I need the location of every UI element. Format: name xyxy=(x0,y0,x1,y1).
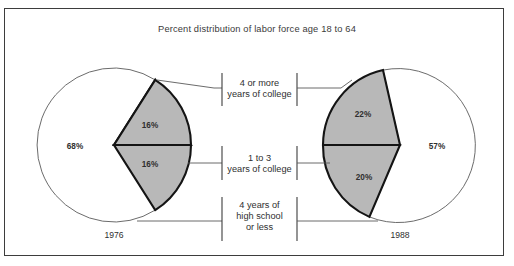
category-label-high-school-line2: high school xyxy=(236,211,282,221)
year-label-1988: 1988 xyxy=(390,230,409,240)
value-label-1988-four-or-more: 22% xyxy=(355,110,372,119)
category-label-one-to-three-line1: 1 to 3 xyxy=(248,153,271,163)
category-label-four-or-more-line1: 4 or more xyxy=(240,78,279,88)
value-label-1976-one-to-three: 16% xyxy=(142,160,159,169)
pie-1976: 16% 16% 68% 1976 xyxy=(37,68,191,240)
value-label-1988-high-school: 57% xyxy=(429,142,446,151)
pie-chart-graphic: 16% 16% 68% 1976 22% 20% 57% 1988 xyxy=(0,0,514,266)
value-label-1976-high-school: 68% xyxy=(67,142,84,151)
figure-page: since the force. Percent distribution of… xyxy=(0,0,514,266)
pie-1988: 22% 20% 57% 1988 xyxy=(323,69,475,240)
category-group-high-school: 4 years of high school or less xyxy=(137,197,378,241)
category-group-four-or-more-college: 4 or more years of college xyxy=(157,73,352,106)
category-label-four-or-more-line2: years of college xyxy=(227,89,291,99)
category-label-high-school-line3: or less xyxy=(246,222,273,232)
category-group-one-to-three-college: 1 to 3 years of college xyxy=(188,146,330,180)
value-label-1988-one-to-three: 20% xyxy=(356,173,373,182)
category-label-one-to-three-line2: years of college xyxy=(227,164,291,174)
category-label-high-school-line1: 4 years of xyxy=(239,200,280,210)
value-label-1976-four-or-more: 16% xyxy=(142,121,159,130)
year-label-1976: 1976 xyxy=(104,230,123,240)
